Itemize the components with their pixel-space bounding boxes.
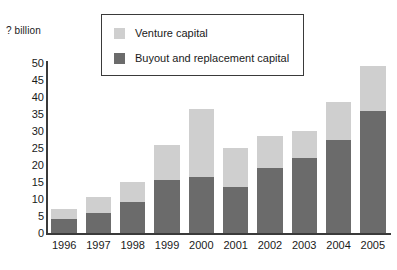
bar-group-2005[interactable] (360, 66, 385, 233)
bar-segment-venture-2001 (223, 148, 248, 187)
y-axis-tick-35: 35 (2, 109, 44, 120)
y-axis-tick-40: 40 (2, 92, 44, 103)
bar-chart: ? billion 50454035302520151050 Venture c… (0, 0, 397, 270)
legend-item-buyout-and-replacement-capital: Buyout and replacement capital (114, 51, 289, 65)
y-axis-tick-labels: 50454035302520151050 (0, 0, 44, 270)
x-axis-tick-2003: 2003 (287, 239, 321, 251)
bar-segment-buyout-1997 (86, 213, 111, 233)
bar-group-1996[interactable] (51, 209, 76, 233)
bar-group-2003[interactable] (292, 131, 317, 233)
y-axis-tick-30: 30 (2, 126, 44, 137)
y-axis-tick-50: 50 (2, 58, 44, 69)
bar-segment-buyout-2002 (257, 168, 282, 233)
bar-group-2000[interactable] (189, 109, 214, 233)
bar-group-1997[interactable] (86, 197, 111, 233)
y-axis-tick-20: 20 (2, 160, 44, 171)
x-axis-tick-1997: 1997 (81, 239, 115, 251)
bar-segment-venture-1999 (154, 145, 179, 181)
bar-segment-venture-1998 (120, 182, 145, 202)
chart-legend: Venture capital Buyout and replacement c… (101, 14, 304, 76)
bar-segment-buyout-2003 (292, 158, 317, 233)
legend-swatch-buyout-and-replacement-capital (114, 53, 125, 64)
x-axis-tick-2002: 2002 (253, 239, 287, 251)
legend-label-venture-capital: Venture capital (135, 27, 208, 39)
bar-segment-venture-2004 (326, 102, 351, 139)
bar-segment-buyout-1998 (120, 202, 145, 233)
legend-label-buyout-and-replacement-capital: Buyout and replacement capital (135, 52, 289, 64)
bar-segment-buyout-2001 (223, 187, 248, 233)
x-axis-line (46, 233, 391, 235)
y-axis-tick-0: 0 (2, 228, 44, 239)
bar-segment-buyout-1999 (154, 180, 179, 233)
bar-segment-venture-1996 (51, 209, 76, 219)
bar-segment-buyout-1996 (51, 219, 76, 233)
legend-swatch-venture-capital (114, 28, 125, 39)
x-axis-tick-1998: 1998 (116, 239, 150, 251)
bar-segment-buyout-2004 (326, 140, 351, 234)
legend-item-venture-capital: Venture capital (114, 26, 208, 40)
bar-group-1998[interactable] (120, 182, 145, 233)
plot-area (47, 63, 390, 233)
x-axis-tick-2001: 2001 (219, 239, 253, 251)
x-axis-tick-2000: 2000 (184, 239, 218, 251)
x-axis-tick-2004: 2004 (321, 239, 355, 251)
bar-segment-venture-1997 (86, 197, 111, 212)
bar-segment-venture-2005 (360, 66, 385, 110)
bar-group-2002[interactable] (257, 136, 282, 233)
y-axis-tick-5: 5 (2, 211, 44, 222)
bar-group-2001[interactable] (223, 148, 248, 233)
x-axis-tick-1996: 1996 (47, 239, 81, 251)
bar-segment-buyout-2000 (189, 177, 214, 233)
x-axis-tick-1999: 1999 (150, 239, 184, 251)
y-axis-tick-10: 10 (2, 194, 44, 205)
bar-group-1999[interactable] (154, 145, 179, 233)
bar-segment-venture-2003 (292, 131, 317, 158)
y-axis-tick-15: 15 (2, 177, 44, 188)
y-axis-tick-25: 25 (2, 143, 44, 154)
bar-group-2004[interactable] (326, 102, 351, 233)
bar-segment-venture-2000 (189, 109, 214, 177)
bar-segment-venture-2002 (257, 136, 282, 168)
bar-segment-buyout-2005 (360, 111, 385, 233)
x-axis-tick-2005: 2005 (356, 239, 390, 251)
y-axis-tick-45: 45 (2, 75, 44, 86)
